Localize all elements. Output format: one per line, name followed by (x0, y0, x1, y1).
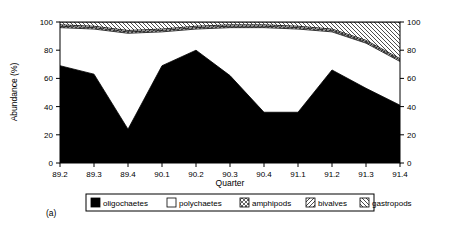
x-tick-label: 90.1 (154, 170, 170, 179)
stacked-area-series-group (60, 22, 400, 163)
panel-label: (a) (46, 208, 57, 218)
y-tick-label-right: 0 (407, 159, 412, 168)
x-axis-title: Quarter (216, 178, 245, 188)
legend-label-polychaetes: polychaetes (179, 199, 222, 208)
x-tick-label: 90.4 (256, 170, 272, 179)
legend-label-oligochaetes: oligochaetes (103, 199, 148, 208)
y-tick-label-right: 100 (407, 18, 421, 27)
y-tick-label-right: 20 (407, 131, 416, 140)
legend-item-gastropods[interactable]: gastropods (360, 198, 412, 208)
x-tick-label: 89.4 (120, 170, 136, 179)
y-tick-label-right: 40 (407, 103, 416, 112)
figure-panel-a: 020406080100 020406080100 89.289.389.490… (0, 0, 458, 228)
x-tick-label: 89.3 (86, 170, 102, 179)
y-tick-label-left: 100 (40, 18, 54, 27)
x-tick-label: 91.4 (392, 170, 408, 179)
y-tick-label-left: 0 (49, 159, 54, 168)
legend-swatch-polychaetes (167, 198, 176, 207)
legend-item-polychaetes[interactable]: polychaetes (167, 198, 222, 208)
y-axis-left-ticks: 020406080100 (40, 18, 60, 168)
legend-swatch-oligochaetes (91, 198, 100, 207)
y-axis-title: Abundance (%) (9, 63, 19, 122)
y-axis-right-ticks: 020406080100 (400, 18, 421, 168)
legend-label-amphipods: amphipods (252, 199, 291, 208)
legend-swatch-gastropods (360, 198, 369, 207)
y-tick-label-left: 40 (44, 103, 53, 112)
x-tick-label: 90.2 (188, 170, 204, 179)
legend-swatch-amphipods (240, 198, 249, 207)
legend-item-oligochaetes[interactable]: oligochaetes (91, 198, 148, 208)
x-tick-label: 91.1 (290, 170, 306, 179)
legend-label-gastropods: gastropods (372, 199, 412, 208)
legend-label-bivalves: bivalves (318, 199, 347, 208)
x-tick-label: 91.3 (358, 170, 374, 179)
y-tick-label-left: 60 (44, 74, 53, 83)
y-tick-label-left: 20 (44, 131, 53, 140)
x-axis-ticks: 89.289.389.490.190.290.390.491.191.291.3… (52, 163, 408, 179)
legend-item-bivalves[interactable]: bivalves (306, 198, 347, 208)
x-tick-label: 89.2 (52, 170, 68, 179)
y-tick-label-right: 60 (407, 74, 416, 83)
legend-item-amphipods[interactable]: amphipods (240, 198, 291, 208)
legend-entries-group: oligochaetespolychaetesamphipodsbivalves… (91, 198, 412, 208)
y-tick-label-left: 80 (44, 46, 53, 55)
legend-swatch-bivalves (306, 198, 315, 207)
y-tick-label-right: 80 (407, 46, 416, 55)
x-tick-label: 91.2 (324, 170, 340, 179)
